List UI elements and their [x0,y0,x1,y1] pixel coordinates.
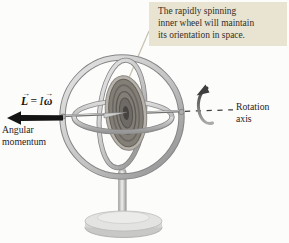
dashed-axis-line [185,110,233,112]
vector-L: L [21,95,28,107]
gyroscope-figure: The rapidly spinning inner wheel will ma… [0,0,289,243]
rotation-direction-arrow [197,85,213,124]
callout-line-2: inner wheel will maintain [158,17,283,29]
stand-base [85,211,162,238]
callout-line-3: its orientation in space. [158,29,283,41]
right-pivot [179,109,184,114]
rotation-axis-line-2: axis [236,113,269,125]
callout-box: The rapidly spinning inner wheel will ma… [149,2,287,46]
momentum-equation: L=Iω [21,95,52,107]
angular-momentum-line-1: Angular [2,124,46,136]
callout-line-1: The rapidly spinning [158,5,283,17]
rotation-axis-caption: Rotation axis [236,101,269,125]
angular-momentum-line-2: momentum [2,136,46,148]
rotation-axis-line-1: Rotation [236,101,269,113]
equals-sign: = [31,95,38,107]
vector-omega: ω [44,95,52,107]
moment-of-inertia-symbol: I [40,95,44,107]
angular-momentum-arrow [7,111,63,125]
angular-momentum-caption: Angular momentum [2,124,46,148]
